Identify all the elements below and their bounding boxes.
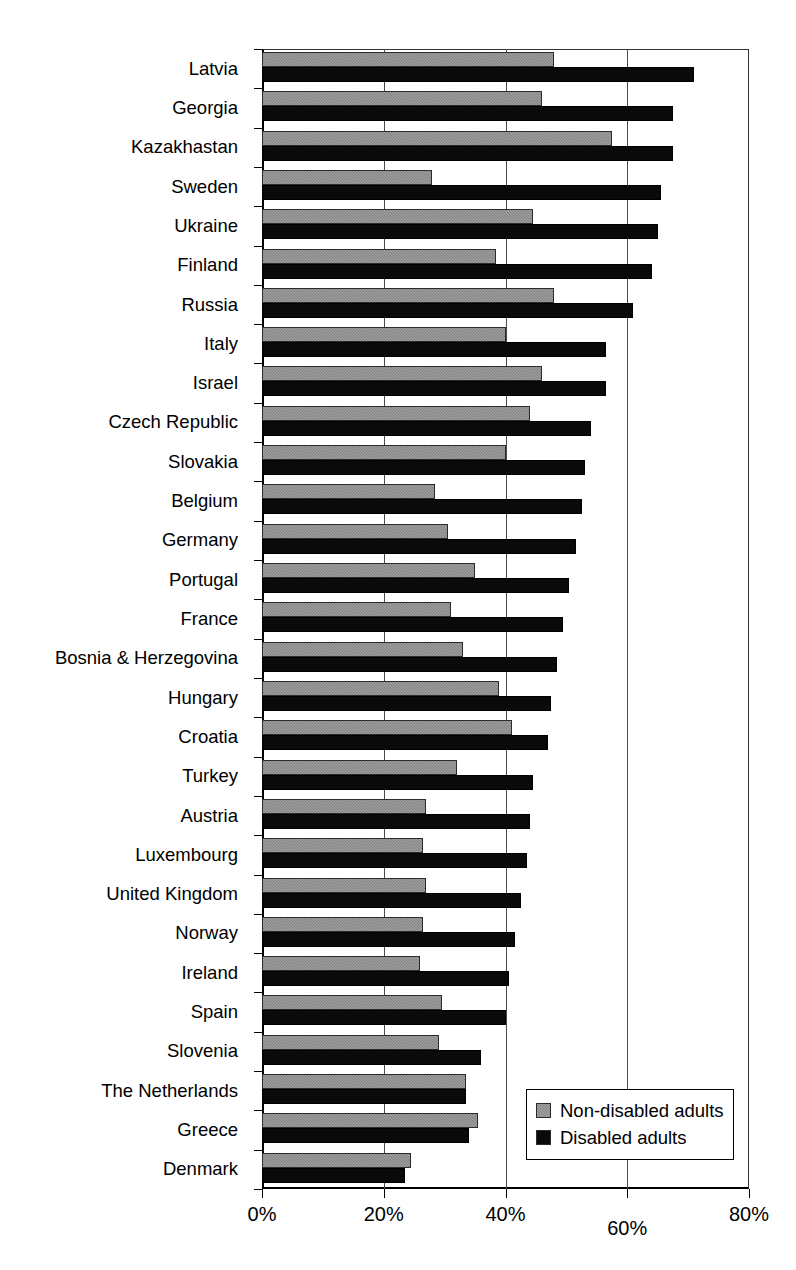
y-axis-tick: [254, 1150, 263, 1151]
category-label: Kazakhastan: [0, 137, 248, 157]
category-label: Hungary: [0, 688, 248, 708]
y-axis-tick: [254, 363, 263, 364]
y-axis-tick: [254, 521, 263, 522]
category-label: Belgium: [0, 491, 248, 511]
y-axis-tick: [254, 128, 263, 129]
category-label: Czech Republic: [0, 412, 248, 432]
category-label: Portugal: [0, 570, 248, 590]
category-label: Croatia: [0, 727, 248, 747]
y-axis-tick: [254, 442, 263, 443]
category-label: Norway: [0, 923, 248, 943]
y-axis-tick: [254, 481, 263, 482]
y-axis-tick: [254, 88, 263, 89]
category-label: Latvia: [0, 59, 248, 79]
y-axis-tick: [254, 875, 263, 876]
category-label: Bosnia & Herzegovina: [0, 648, 248, 668]
y-axis-tick: [254, 285, 263, 286]
category-label: The Netherlands: [0, 1081, 248, 1101]
y-axis-tick: [254, 992, 263, 993]
y-axis-tick: [254, 246, 263, 247]
x-axis-tick: [749, 1189, 750, 1198]
legend-label: Non-disabled adults: [560, 1101, 724, 1121]
x-axis-tick: [384, 1189, 385, 1198]
category-label: Spain: [0, 1002, 248, 1022]
legend-label: Disabled adults: [560, 1128, 687, 1148]
x-axis-label: 80%: [729, 1203, 769, 1226]
category-label: Georgia: [0, 98, 248, 118]
category-label: Sweden: [0, 177, 248, 197]
y-axis-tick: [254, 1071, 263, 1072]
x-axis-tick: [506, 1189, 507, 1198]
legend-item-disabled-adults: Disabled adults: [536, 1124, 724, 1151]
y-axis-tick: [254, 403, 263, 404]
x-axis-label: 0%: [248, 1203, 277, 1226]
category-axis-labels: LatviaGeorgiaKazakhastanSwedenUkraineFin…: [0, 49, 248, 1189]
category-label: Russia: [0, 295, 248, 315]
x-axis-tick: [262, 1189, 263, 1198]
y-axis-tick: [254, 1032, 263, 1033]
y-axis-tick: [254, 324, 263, 325]
y-axis-tick: [254, 49, 263, 50]
category-label: Slovenia: [0, 1041, 248, 1061]
legend-swatch-icon-disabled: [536, 1130, 551, 1145]
category-label: Denmark: [0, 1159, 248, 1179]
x-axis-label: 60%: [607, 1217, 647, 1240]
y-axis-tick: [254, 560, 263, 561]
category-label: Ireland: [0, 963, 248, 983]
x-axis-label: 40%: [485, 1203, 525, 1226]
category-label: Ukraine: [0, 216, 248, 236]
y-axis-tick: [254, 678, 263, 679]
legend-item-non-disabled-adults: Non-disabled adults: [536, 1097, 724, 1124]
y-axis-tick: [254, 835, 263, 836]
legend-swatch-icon-non-disabled: [536, 1103, 551, 1118]
y-axis-tick: [254, 953, 263, 954]
y-axis-tick: [254, 717, 263, 718]
category-label: Luxembourg: [0, 845, 248, 865]
y-axis-tick: [254, 639, 263, 640]
category-label: Turkey: [0, 766, 248, 786]
category-label: Israel: [0, 373, 248, 393]
x-axis-label: 20%: [364, 1203, 404, 1226]
category-label: Finland: [0, 255, 248, 275]
chart-legend: Non-disabled adults Disabled adults: [526, 1089, 734, 1160]
y-axis-tick: [254, 599, 263, 600]
y-axis-tick: [254, 167, 263, 168]
bar-chart: LatviaGeorgiaKazakhastanSwedenUkraineFin…: [0, 0, 796, 1270]
y-axis-tick: [254, 1110, 263, 1111]
y-axis-tick: [254, 757, 263, 758]
x-axis-tick: [627, 1189, 628, 1198]
category-label: Italy: [0, 334, 248, 354]
category-label: Greece: [0, 1120, 248, 1140]
y-axis-tick: [254, 914, 263, 915]
category-label: France: [0, 609, 248, 629]
y-axis-tick: [254, 796, 263, 797]
category-label: Germany: [0, 530, 248, 550]
category-label: Slovakia: [0, 452, 248, 472]
category-label: United Kingdom: [0, 884, 248, 904]
y-axis-tick: [254, 206, 263, 207]
category-label: Austria: [0, 806, 248, 826]
